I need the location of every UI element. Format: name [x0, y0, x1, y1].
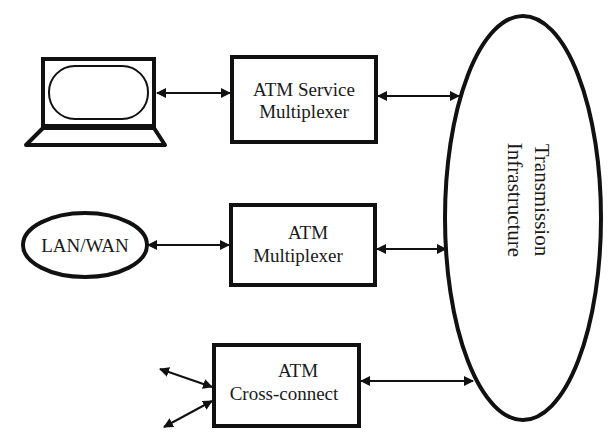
service-mux-label-line2: Multiplexer — [259, 101, 349, 122]
atm-network-diagram: ATM Service Multiplexer LAN/WAN ATM Mult… — [0, 0, 615, 445]
cross-connect-label-line2: Cross-connect — [230, 383, 339, 404]
atm-mux-label-line2: Multiplexer — [253, 245, 343, 266]
service-mux-label-line1: ATM Service — [253, 79, 355, 100]
transmission-infrastructure-node: Transmission Infrastructure — [445, 16, 601, 420]
atm-service-multiplexer-node: ATM Service Multiplexer — [232, 57, 376, 142]
laptop-icon — [26, 59, 165, 145]
cross-connect-label-line1: ATM — [278, 360, 318, 381]
lan-wan-node: LAN/WAN — [23, 213, 147, 277]
transmission-label-line2: Infrastructure — [503, 143, 527, 257]
atm-cross-connect-node: ATM Cross-connect — [214, 345, 359, 426]
lan-wan-label: LAN/WAN — [41, 235, 129, 256]
arrow-external-2-cross-connect — [164, 401, 212, 427]
transmission-label-line1: Transmission — [530, 144, 554, 257]
atm-mux-label-line1: ATM — [288, 222, 328, 243]
arrow-external-1-cross-connect — [160, 369, 212, 387]
atm-multiplexer-node: ATM Multiplexer — [231, 205, 375, 285]
